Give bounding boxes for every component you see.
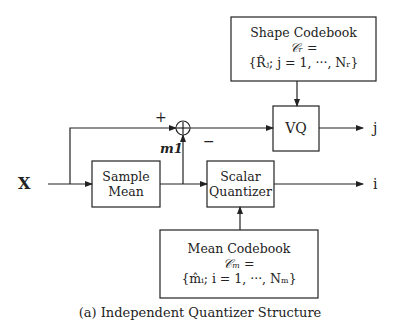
shape-codebook-set: {R̂ⱼ; j = 1, ···, Nᵣ} <box>231 55 376 70</box>
output-i-label: i <box>373 177 377 191</box>
minus-sign: − <box>203 134 215 148</box>
mean-codebook-symbol: 𝒞ₘ = <box>160 256 318 271</box>
scalar-quantizer-line1: Scalar <box>207 169 274 184</box>
figure-caption: (a) Independent Quantizer Structure <box>60 305 340 320</box>
sample-mean-text: Sample Mean <box>92 169 160 199</box>
output-j-label: j <box>373 121 377 135</box>
scalar-quantizer-line2: Quantizer <box>207 184 274 199</box>
vq-text: VQ <box>273 121 319 136</box>
mean-codebook-title: Mean Codebook <box>160 241 318 256</box>
m1-label: m1 <box>160 142 183 155</box>
mean-codebook-set: {m̂ᵢ; i = 1, ···, Nₘ} <box>160 271 318 286</box>
input-label-x: X <box>18 176 30 192</box>
mean-codebook-text: Mean Codebook 𝒞ₘ = {m̂ᵢ; i = 1, ···, Nₘ} <box>160 241 318 286</box>
scalar-quantizer-text: Scalar Quantizer <box>207 169 274 199</box>
sample-mean-line2: Mean <box>92 184 160 199</box>
shape-codebook-title: Shape Codebook <box>231 25 376 40</box>
shape-codebook-text: Shape Codebook 𝒞ᵣ = {R̂ⱼ; j = 1, ···, Nᵣ… <box>231 25 376 70</box>
shape-codebook-symbol: 𝒞ᵣ = <box>231 40 376 55</box>
sample-mean-line1: Sample <box>92 169 160 184</box>
plus-sign: + <box>155 110 167 124</box>
